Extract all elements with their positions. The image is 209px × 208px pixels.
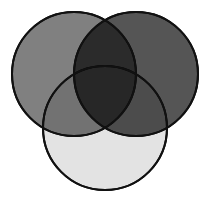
venn-diagram-canvas: Three-circle Venn diagram bbox=[0, 0, 209, 208]
venn-diagram-svg: Three-circle Venn diagram bbox=[0, 0, 209, 208]
